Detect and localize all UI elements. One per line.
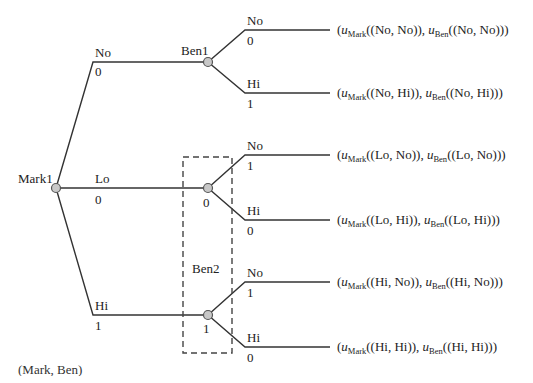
label-mark1: Mark1 (18, 172, 53, 186)
label-ben2hi-action-hi: Hi (247, 331, 260, 345)
edge-mark-hi (56, 188, 208, 315)
node-ben1 (204, 58, 213, 67)
edge-ben2hi-hi (208, 315, 330, 347)
edge-ben2lo-no (208, 155, 330, 188)
label-mark-action-no: No (95, 46, 111, 60)
node-value-ben2-hi: 1 (203, 322, 210, 336)
edge-mark-no (56, 62, 208, 188)
payoff-no-no: (uMark((No, No)), uBen((No, No))) (337, 22, 509, 42)
label-mark-action-hi: Hi (95, 299, 108, 313)
node-value-ben2-lo: 0 (203, 196, 210, 210)
prob-mark-action-hi: 1 (95, 319, 102, 333)
node-mark1 (52, 184, 61, 193)
payoff-lo-hi: (uMark((Lo, Hi)), uBen((Lo, Hi))) (337, 212, 500, 232)
game-tree (0, 0, 533, 383)
label-ben2lo-action-hi: Hi (247, 204, 260, 218)
edge-ben2hi-no (208, 282, 330, 315)
prob-ben1-action-hi: 1 (247, 97, 254, 111)
label-ben1-action-no: No (247, 14, 263, 28)
label-ben2hi-action-no: No (247, 266, 263, 280)
label-ben2: Ben2 (192, 262, 219, 276)
top-clip (0, 0, 533, 6)
node-ben2-lo (204, 184, 213, 193)
prob-mark-action-no: 0 (95, 65, 102, 79)
edge-ben2lo-hi (208, 188, 330, 220)
prob-mark-action-lo: 0 (95, 193, 102, 207)
payoff-hi-hi: (uMark((Hi, Hi)), uBen((Hi, Hi))) (337, 339, 497, 359)
payoff-no-hi: (uMark((No, Hi)), uBen((No, Hi))) (337, 85, 503, 105)
prob-ben1-action-no: 0 (247, 34, 254, 48)
prob-ben2lo-action-hi: 0 (247, 224, 254, 238)
label-ben1: Ben1 (181, 44, 208, 58)
label-ben2lo-action-no: No (247, 139, 263, 153)
prob-ben2hi-action-no: 1 (247, 286, 254, 300)
payoff-hi-no: (uMark((Hi, No)), uBen((Hi, No))) (337, 274, 503, 294)
edge-ben1-hi (208, 62, 330, 93)
prob-ben2hi-action-hi: 0 (247, 351, 254, 365)
node-ben2-hi (204, 311, 213, 320)
payoff-lo-no: (uMark((Lo, No)), uBen((Lo, No))) (337, 147, 506, 167)
prob-ben2lo-action-no: 1 (247, 159, 254, 173)
edge-ben1-no (208, 30, 330, 62)
label-ben1-action-hi: Hi (247, 77, 260, 91)
bottom-clip (0, 376, 140, 383)
label-mark-action-lo: Lo (95, 172, 109, 186)
